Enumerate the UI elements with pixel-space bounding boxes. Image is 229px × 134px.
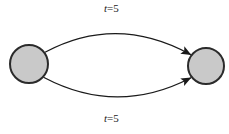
edge-bottom-label-value: 5 (113, 112, 119, 124)
edge-top-curve (46, 34, 191, 55)
diagram-canvas: t=5 t=5 (0, 0, 229, 134)
edge-top-label: t=5 (104, 3, 119, 14)
edge-top-label-value: 5 (113, 2, 119, 14)
edge-bottom-curve (44, 78, 191, 97)
edge-bottom-label: t=5 (104, 113, 119, 124)
node-right[interactable] (188, 48, 224, 84)
node-left[interactable] (10, 45, 48, 83)
